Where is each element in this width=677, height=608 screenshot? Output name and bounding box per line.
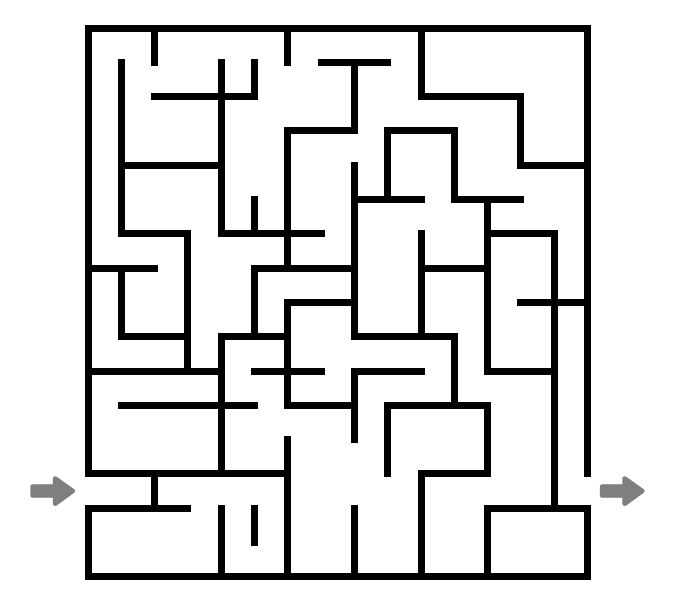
maze-wall-horizontal — [284, 402, 358, 409]
maze-border-segment — [584, 505, 591, 581]
maze-figure — [0, 0, 677, 608]
maze-wall-horizontal — [351, 333, 458, 340]
maze-wall-vertical — [484, 402, 491, 478]
maze-wall-vertical — [284, 299, 291, 409]
maze-border-segment — [584, 25, 591, 478]
maze-border-segment — [85, 573, 592, 580]
maze-border-segment — [85, 25, 92, 478]
maze-wall-vertical — [118, 265, 125, 341]
maze-wall-vertical — [351, 59, 358, 135]
maze-wall-vertical — [251, 265, 258, 341]
maze-wall-vertical — [218, 402, 225, 478]
maze-wall-vertical — [151, 25, 158, 66]
maze-wall-vertical — [218, 505, 225, 581]
maze-wall-vertical — [451, 127, 458, 203]
maze-wall-vertical — [351, 265, 358, 341]
maze-wall-horizontal — [418, 93, 525, 100]
maze-wall-vertical — [218, 333, 225, 409]
maze-wall-vertical — [251, 505, 258, 546]
maze-wall-vertical — [151, 470, 158, 511]
maze-wall-horizontal — [418, 265, 492, 272]
maze-wall-horizontal — [118, 402, 258, 409]
maze-wall-horizontal — [85, 368, 225, 375]
maze-border-segment — [85, 505, 92, 581]
maze-wall-horizontal — [218, 470, 292, 477]
maze-wall-vertical — [351, 505, 358, 581]
maze-wall-horizontal — [118, 333, 192, 340]
maze-wall-vertical — [184, 230, 191, 374]
maze-wall-horizontal — [118, 230, 192, 237]
maze-wall-horizontal — [218, 230, 325, 237]
maze-wall-vertical — [251, 59, 258, 100]
maze-wall-vertical — [351, 368, 358, 444]
maze-wall-horizontal — [284, 127, 358, 134]
maze-wall-vertical — [451, 333, 458, 409]
maze-wall-horizontal — [85, 505, 192, 512]
maze-wall-horizontal — [351, 368, 425, 375]
maze-wall-vertical — [218, 93, 225, 237]
maze-wall-vertical — [118, 59, 125, 169]
maze-wall-vertical — [418, 25, 425, 101]
maze-wall-vertical — [551, 230, 558, 306]
maze-wall-horizontal — [118, 162, 225, 169]
maze-wall-vertical — [418, 470, 425, 580]
maze-wall-vertical — [484, 265, 491, 375]
maze-wall-vertical — [517, 93, 524, 169]
maze-wall-vertical — [551, 436, 558, 512]
maze-wall-vertical — [284, 436, 291, 512]
maze-border-segment — [85, 25, 592, 32]
maze-wall-horizontal — [384, 402, 491, 409]
maze-wall-horizontal — [251, 265, 358, 272]
maze-wall-vertical — [251, 196, 258, 237]
maze-wall-vertical — [351, 162, 358, 272]
maze-wall-vertical — [284, 25, 291, 66]
maze-wall-vertical — [551, 299, 558, 443]
maze-wall-vertical — [284, 505, 291, 581]
maze-wall-vertical — [284, 162, 291, 272]
maze-wall-horizontal — [284, 299, 358, 306]
maze-wall-vertical — [418, 230, 425, 340]
maze-wall-horizontal — [418, 470, 492, 477]
maze-wall-horizontal — [151, 93, 258, 100]
maze-wall-vertical — [384, 402, 391, 478]
maze-wall-horizontal — [384, 127, 458, 134]
maze-wall-vertical — [484, 196, 491, 272]
maze-wall-vertical — [118, 162, 125, 238]
maze-wall-vertical — [484, 505, 491, 581]
maze-wall-horizontal — [484, 230, 558, 237]
maze-wall-vertical — [384, 127, 391, 203]
maze-wall-horizontal — [517, 162, 591, 169]
maze-wall-horizontal — [484, 368, 558, 375]
maze-canvas — [0, 0, 677, 608]
